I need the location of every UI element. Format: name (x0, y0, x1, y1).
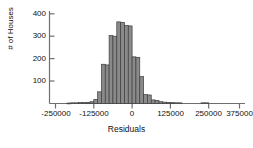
histogram-bar (71, 103, 75, 104)
histogram-bar (94, 99, 98, 103)
axes-group (50, 11, 246, 109)
histogram-bar (109, 36, 113, 104)
histogram-bar (113, 36, 117, 103)
histogram-bar (90, 102, 94, 104)
histogram-bar (98, 92, 102, 104)
x-axis-title: Residuals (0, 124, 253, 134)
x-tick-label-0: 0 (120, 110, 144, 118)
histogram-bar (67, 103, 71, 104)
histogram-bar (167, 102, 171, 103)
histogram-bar (117, 22, 121, 104)
histogram-bar (144, 95, 148, 104)
histogram-bar (170, 103, 174, 104)
histogram-bar (128, 26, 132, 104)
histogram-bar (201, 103, 205, 104)
histogram-figure: # of Houses 400 300 200 100 -250000 -125… (0, 0, 253, 148)
x-tick-label-neg125000: -125000 (69, 110, 119, 118)
histogram-bar (132, 57, 136, 104)
histogram-bar (140, 77, 144, 104)
histogram-bar (136, 57, 140, 103)
histogram-bar (75, 103, 79, 104)
histogram-bar (82, 103, 86, 104)
histogram-bar (205, 103, 209, 104)
histogram-bar (101, 64, 105, 103)
histogram-bar (151, 100, 155, 104)
histogram-bar (159, 102, 163, 104)
histogram-bar (147, 95, 151, 104)
bars-group (67, 22, 209, 104)
histogram-bar (178, 103, 182, 104)
histogram-bar (86, 102, 90, 103)
histogram-bar (78, 103, 82, 104)
histogram-bar (124, 25, 128, 103)
histogram-bar (174, 103, 178, 104)
histogram-bar (163, 102, 167, 103)
x-tick-label-375000: 375000 (216, 110, 253, 118)
histogram-bar (105, 65, 109, 104)
histogram-bar (121, 22, 125, 103)
histogram-bar (155, 100, 159, 103)
